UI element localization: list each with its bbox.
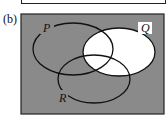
set-p-label: P (42, 21, 51, 35)
set-q-label: Q (141, 21, 150, 35)
venn-diagram: P Q R (0, 0, 166, 116)
set-r-label: R (58, 91, 67, 105)
